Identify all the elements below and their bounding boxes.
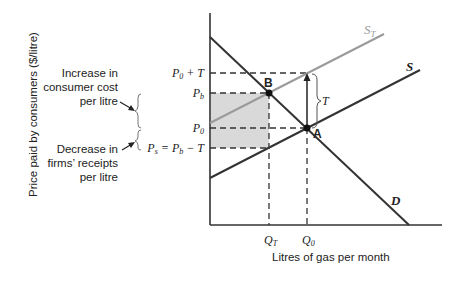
tax-brace-icon (312, 74, 321, 128)
point-a (304, 125, 311, 132)
point-a-label: A (313, 127, 322, 141)
price-pb: Pb (192, 86, 204, 101)
price-ps: Ps = Pb − T (146, 141, 205, 156)
price-p0-plus-t: P0 + T (171, 66, 205, 81)
price-p0: P0 (192, 121, 204, 136)
arrow-head-icon (128, 105, 135, 111)
y-axis-label: Price paid by consumers ($/litre) (27, 32, 39, 197)
quantity-q0: Q0 (302, 233, 315, 248)
supply-tax-curve (210, 34, 384, 123)
decrease-brace-icon (135, 130, 141, 150)
supply-label: S (406, 59, 413, 74)
increase-brace-icon (135, 94, 141, 128)
point-b-label: B (264, 76, 273, 90)
supply-tax-label: ST (364, 22, 377, 39)
point-b (266, 90, 273, 97)
arrow-head-icon (128, 142, 135, 148)
x-axis-label: Litres of gas per month (272, 251, 390, 263)
tax-incidence-diagram: B A ST S D T P0 + T Pb P0 Ps = Pb − T QT… (0, 0, 464, 282)
quantity-qt: QT (264, 233, 278, 248)
tax-label: T (322, 94, 330, 108)
tax-revenue-area (211, 93, 269, 148)
demand-label: D (390, 193, 401, 208)
